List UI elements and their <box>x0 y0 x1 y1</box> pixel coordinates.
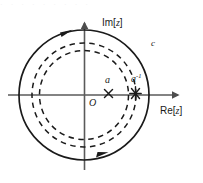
imaginary-axis-label: Im[z] <box>102 18 123 28</box>
imaginary-axis-label-prefix: Im[ <box>102 17 116 28</box>
origin-label: O <box>89 98 96 108</box>
complex-plane-figure: · · · · · · · · · <box>0 0 203 183</box>
pole-a-marker <box>105 90 113 98</box>
pole-a-inverse-exponent: -1 <box>136 72 141 79</box>
contour-label: c <box>151 39 155 48</box>
imaginary-axis-label-suffix: ] <box>120 17 123 28</box>
real-axis-label-prefix: Re[ <box>160 105 176 116</box>
real-axis-label-suffix: ] <box>179 105 182 116</box>
real-axis-label: Re[z] <box>160 106 182 116</box>
pole-a-label: a <box>105 75 110 85</box>
pole-a-inverse-marker <box>130 87 141 100</box>
pole-a-inverse-label: a-1 <box>131 74 141 84</box>
contour-direction-arrow-top <box>60 30 73 37</box>
